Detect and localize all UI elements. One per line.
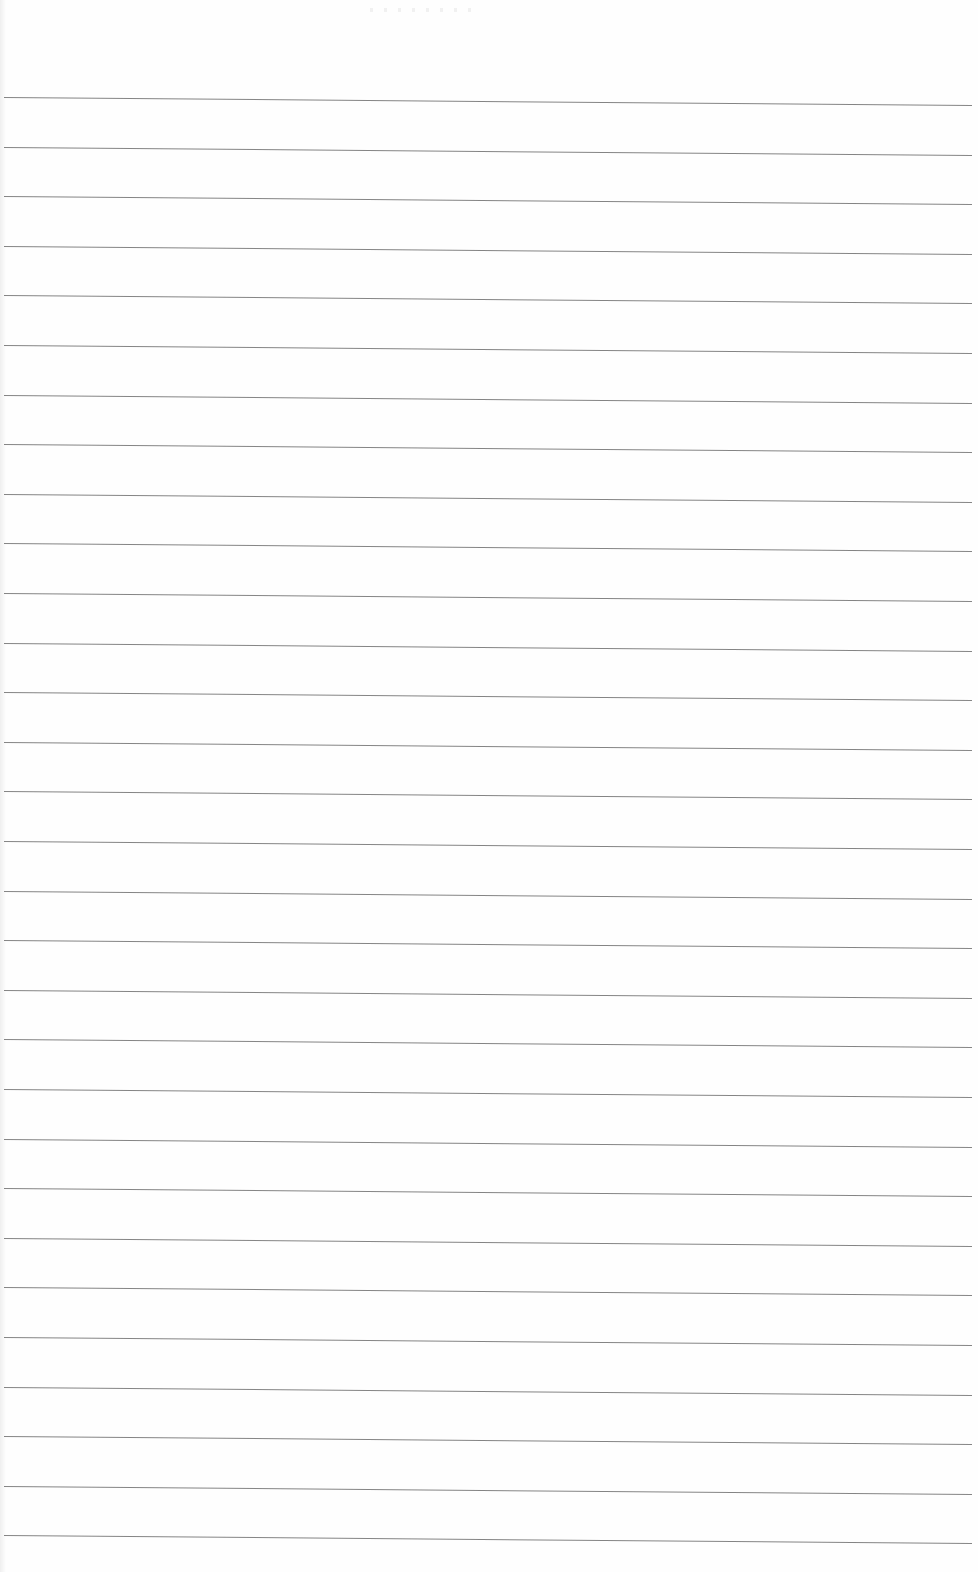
lined-paper-page	[0, 0, 978, 1572]
ruled-line	[4, 97, 972, 106]
ruled-line	[4, 643, 972, 652]
ruled-line	[4, 692, 972, 701]
ruled-line	[4, 791, 972, 800]
ruled-line	[4, 1535, 972, 1544]
ruled-line	[4, 742, 972, 751]
ruled-line	[4, 1089, 972, 1098]
ruled-line	[4, 940, 972, 949]
ruled-line	[4, 1238, 972, 1247]
ruled-line	[4, 147, 972, 156]
ruled-line	[4, 395, 972, 404]
ruled-line	[4, 891, 972, 900]
ruled-line	[4, 841, 972, 850]
ruled-line	[4, 1039, 972, 1048]
ruled-line	[4, 444, 972, 453]
ruled-line	[4, 246, 972, 255]
ruled-line	[4, 345, 972, 354]
ruled-line	[4, 295, 972, 304]
ruled-line	[4, 1139, 972, 1148]
ruled-line	[4, 1188, 972, 1197]
ruled-line	[4, 1287, 972, 1296]
ruled-line	[4, 1337, 972, 1346]
scan-artifact	[370, 8, 480, 12]
ruled-line	[4, 1436, 972, 1445]
ruled-line	[4, 593, 972, 602]
ruled-line	[4, 1486, 972, 1495]
ruled-line	[4, 543, 972, 552]
ruled-line	[4, 494, 972, 503]
ruled-line	[4, 1387, 972, 1396]
ruled-line	[4, 990, 972, 999]
ruled-line	[4, 196, 972, 205]
